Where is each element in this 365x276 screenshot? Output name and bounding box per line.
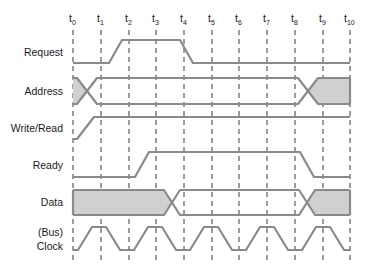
time-markers: t0 t1 t2 t3 t4 t5 t6 t7 t8 t9 t10 [69, 12, 355, 26]
time-label-t6: t6 [235, 12, 242, 26]
label-data: Data [41, 196, 63, 208]
time-label-t4: t4 [180, 12, 187, 26]
time-label-t9: t9 [319, 12, 326, 26]
timing-diagram: t0 t1 t2 t3 t4 t5 t6 t7 t8 t9 t10 Reques… [0, 0, 365, 276]
time-label-t1: t1 [97, 12, 104, 26]
label-ready: Ready [33, 159, 64, 171]
label-write-read: Write/Read [11, 122, 63, 134]
label-clock-line2: Clock [37, 240, 64, 252]
data-shade-start [73, 190, 172, 215]
time-label-t0: t0 [69, 12, 76, 26]
time-label-t5: t5 [208, 12, 215, 26]
time-label-t2: t2 [125, 12, 132, 26]
signal-clock-waveform [73, 227, 350, 250]
signal-write-read-waveform [73, 117, 350, 139]
time-label-t8: t8 [291, 12, 298, 26]
label-clock-line1: (Bus) [38, 226, 63, 238]
time-label-t10: t10 [344, 12, 355, 26]
signal-request-waveform [73, 40, 350, 63]
label-request: Request [24, 46, 63, 58]
label-address: Address [24, 85, 63, 97]
time-label-t7: t7 [263, 12, 270, 26]
time-label-t3: t3 [152, 12, 159, 26]
signal-data-waveform [73, 190, 350, 215]
signal-ready-waveform [73, 152, 350, 177]
signal-labels: Request Address Write/Read Ready Data (B… [11, 46, 64, 252]
signal-address-waveform [73, 78, 350, 104]
